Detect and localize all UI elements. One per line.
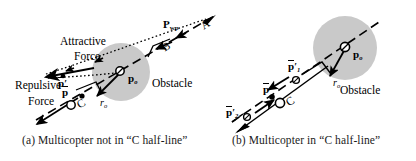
label-repulsive-force-line1-a: Repulsive xyxy=(15,80,61,92)
label-p-bar-a: p xyxy=(62,86,68,98)
label-p-bar-b: p xyxy=(263,83,269,95)
label-p-o-a: po xyxy=(128,73,137,84)
p-bar-prime-1-arrow-b xyxy=(268,77,289,90)
label-p-wp-a: Pwp xyxy=(163,19,179,30)
label-attractive-force-line2-a: Force xyxy=(74,51,100,63)
label-p-bar-prime-2-b: p′2 xyxy=(226,106,238,118)
label-p-o-b: po xyxy=(353,49,362,60)
label-r-o-b: ro xyxy=(333,78,340,88)
caption-panel-a: (a) Multicopter not in “C half-line” xyxy=(22,134,188,146)
p-bar-prime-1-marker-b xyxy=(293,77,300,84)
label-obstacle-a: Obstacle xyxy=(152,78,192,90)
point-c-marker-b xyxy=(275,98,284,107)
p-bar-marker-b xyxy=(269,94,275,100)
obstacle-center-marker-b xyxy=(340,42,349,51)
label-repulsive-force-line2-a: Force xyxy=(28,96,54,108)
figure-container: Pwp Attractive Force Repulsive Force Obs… xyxy=(0,0,416,161)
label-p-bar-prime-1-b: p′1 xyxy=(288,60,300,72)
label-r-o-a: ro xyxy=(100,98,107,108)
panel-a-graphics xyxy=(36,15,216,124)
panel-b-graphics xyxy=(232,16,382,134)
label-attractive-force-line1-a: Attractive xyxy=(60,36,106,48)
p-bar-prime-2-marker-b xyxy=(244,114,251,121)
c-half-line-a xyxy=(36,15,216,120)
obstacle-center-marker-a xyxy=(116,67,124,75)
point-c-marker-a xyxy=(67,101,75,109)
caption-panel-b: (b) Multicopter in “C half-line” xyxy=(232,134,380,146)
label-obstacle-b: Obstacle xyxy=(340,85,380,97)
